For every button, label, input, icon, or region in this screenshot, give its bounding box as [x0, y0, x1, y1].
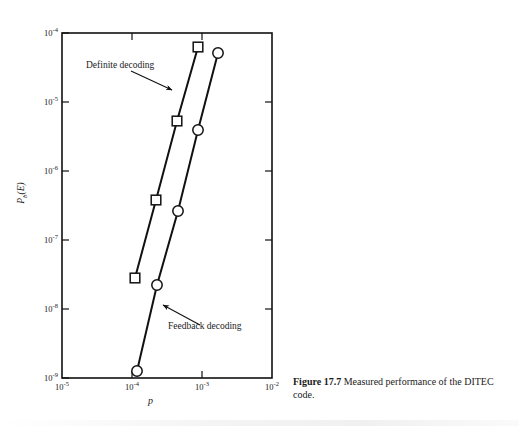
y-axis-ticks-right	[265, 102, 272, 309]
scan-artifact	[0, 420, 519, 426]
annotation-leader-definite	[131, 71, 172, 90]
annotation-definite-decoding: Definite decoding	[86, 61, 154, 71]
data-point-circle	[213, 48, 223, 58]
figure-container: 10-4 10-5 10-6 10-7 10-8 10-9 10-5 10-4 …	[0, 0, 519, 426]
x-axis-label: p	[148, 395, 153, 406]
y-tick-label-1e-7: 10-7	[24, 236, 58, 245]
y-tick-label-1e-4: 10-4	[24, 29, 58, 38]
data-point-circle	[152, 280, 162, 290]
data-point-square	[193, 42, 203, 52]
y-axis-label: Pb(E)	[16, 182, 26, 203]
x-tick-label-1e-2: 10-2	[252, 383, 292, 392]
series-definite-line	[135, 47, 198, 278]
y-axis-ticks	[62, 33, 69, 378]
data-point-circle	[173, 206, 183, 216]
data-point-circle	[132, 366, 142, 376]
figure-caption: Figure 17.7 Measured performance of the …	[293, 375, 507, 401]
annotation-feedback-decoding: Feedback decoding	[168, 322, 242, 332]
y-tick-label-1e-6: 10-6	[24, 167, 58, 176]
data-point-square	[130, 273, 140, 283]
y-tick-label-1e-8: 10-8	[24, 305, 58, 314]
data-point-square	[151, 195, 161, 205]
x-tick-label-1e-3: 10-3	[182, 383, 222, 392]
figure-caption-label: Figure 17.7	[293, 376, 341, 387]
series-definite-decoding	[130, 42, 203, 283]
y-tick-label-1e-9: 10-9	[24, 374, 58, 383]
x-tick-label-1e-4: 10-4	[112, 383, 152, 392]
y-tick-label-1e-5: 10-5	[24, 98, 58, 107]
x-tick-label-1e-5: 10-5	[42, 383, 82, 392]
data-point-circle	[193, 125, 203, 135]
data-point-square	[172, 116, 182, 126]
x-axis-ticks-top	[132, 33, 202, 40]
